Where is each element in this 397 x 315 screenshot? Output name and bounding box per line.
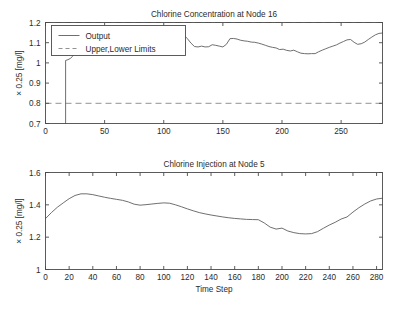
legend-label: Output xyxy=(86,32,111,41)
x-tick-label: 0 xyxy=(43,273,48,282)
x-tick-label: 100 xyxy=(157,273,171,282)
x-tick-label: 160 xyxy=(228,273,242,282)
y-tick-label: 1.1 xyxy=(29,39,41,48)
figure-canvas: Chlorine Concentration at Node 160501001… xyxy=(0,0,397,315)
x-tick-label: 250 xyxy=(334,127,348,136)
x-tick-label: 40 xyxy=(88,273,98,282)
x-tick-label: 260 xyxy=(346,273,360,282)
legend-chlorine-concentration[interactable]: OutputUpper,Lower Limits xyxy=(52,26,186,56)
y-tick-label: 0.9 xyxy=(29,79,41,88)
chart-title-chlorine-injection: Chlorine Injection at Node 5 xyxy=(163,160,264,169)
x-tick-label: 120 xyxy=(181,273,195,282)
x-axis-label-chlorine-injection: Time Step xyxy=(195,285,232,294)
axes-chlorine-injection: Chlorine Injection at Node 5020406080100… xyxy=(15,160,384,294)
x-tick-label: 240 xyxy=(322,273,336,282)
x-tick-label: 200 xyxy=(275,273,289,282)
y-tick-label: 1.2 xyxy=(29,19,41,28)
matlab-figure-window: Chlorine Concentration at Node 160501001… xyxy=(0,0,397,315)
plot-background-chlorine-injection xyxy=(46,173,383,270)
legend-label: Upper,Lower Limits xyxy=(86,45,156,54)
y-tick-label: 1 xyxy=(36,59,41,68)
y-tick-label: 1 xyxy=(36,266,41,275)
x-tick-label: 50 xyxy=(100,127,110,136)
x-tick-label: 100 xyxy=(157,127,171,136)
y-tick-label: 0.7 xyxy=(29,120,41,129)
x-tick-label: 20 xyxy=(65,273,75,282)
x-tick-label: 80 xyxy=(136,273,146,282)
x-tick-label: 280 xyxy=(370,273,384,282)
y-tick-label: 1.6 xyxy=(29,169,41,178)
chart-title-chlorine-concentration: Chlorine Concentration at Node 16 xyxy=(151,10,278,19)
x-tick-label: 140 xyxy=(204,273,218,282)
x-tick-label: 180 xyxy=(252,273,266,282)
x-tick-label: 0 xyxy=(43,127,48,136)
x-tick-label: 220 xyxy=(299,273,313,282)
y-axis-label-chlorine-concentration: × 0.25 [mg/l] xyxy=(15,50,24,95)
y-tick-label: 0.8 xyxy=(29,99,41,108)
x-tick-label: 200 xyxy=(275,127,289,136)
y-tick-label: 1.4 xyxy=(29,201,41,210)
axes-chlorine-concentration: Chlorine Concentration at Node 160501001… xyxy=(15,10,383,137)
y-tick-label: 1.2 xyxy=(29,233,41,242)
y-axis-label-chlorine-injection: × 0.25 [mg/l] xyxy=(15,198,24,243)
x-tick-label: 60 xyxy=(112,273,122,282)
x-tick-label: 150 xyxy=(216,127,230,136)
